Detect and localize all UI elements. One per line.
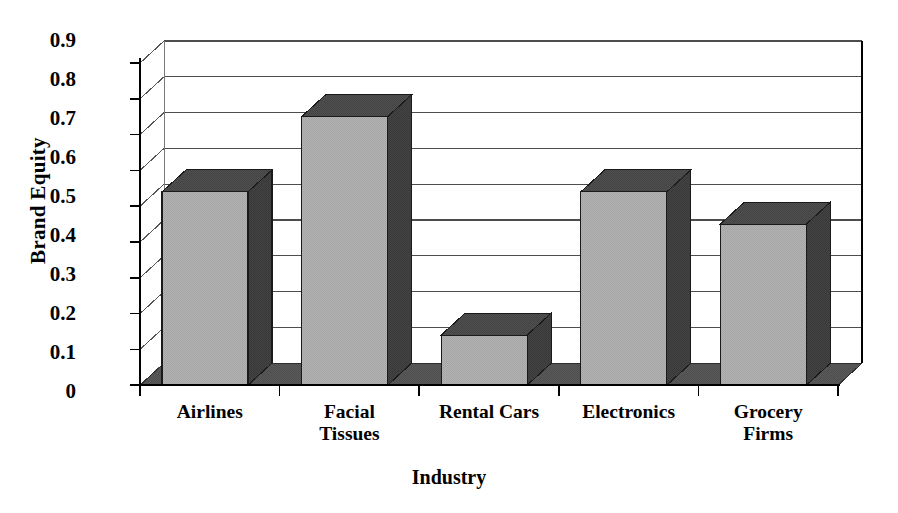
x-tick-line2: Firms xyxy=(683,423,853,445)
x-axis-title: Industry xyxy=(364,466,534,489)
x-tick-line2: Tissues xyxy=(264,423,434,445)
bar-electronics[interactable] xyxy=(581,170,691,385)
bar-airlines[interactable] xyxy=(162,170,272,385)
bar-rental-cars[interactable] xyxy=(441,313,551,385)
bar-chart: Brand Equity 0.9 0.8 0.7 0.6 0.5 0.4 0.3… xyxy=(0,0,898,513)
bar-grocery-firms[interactable] xyxy=(720,202,830,385)
x-tick-label-grocery-firms: Grocery Firms xyxy=(683,401,853,445)
x-axis xyxy=(140,385,840,396)
left-side-wall xyxy=(140,41,164,385)
x-tick-line1: Grocery xyxy=(683,401,853,423)
y-axis xyxy=(130,58,140,393)
bar-facial-tissues[interactable] xyxy=(302,95,412,386)
